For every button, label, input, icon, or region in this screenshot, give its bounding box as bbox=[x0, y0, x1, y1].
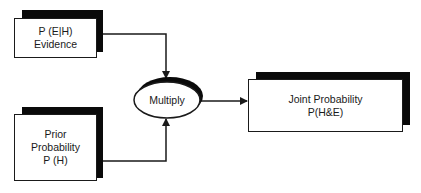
joint-node-formula: P(H&E) bbox=[308, 106, 344, 119]
edge-evidence-to-multiply bbox=[103, 34, 166, 78]
prior-node-formula: P (H) bbox=[43, 154, 67, 167]
prior-node-line-2: Probability bbox=[31, 141, 80, 154]
prior-node-line-1: Prior bbox=[44, 128, 66, 141]
multiply-node-label: Multiply bbox=[134, 82, 200, 118]
diagram-canvas: P (E|H) Evidence Prior Probability P (H)… bbox=[0, 0, 421, 193]
evidence-node-label: Evidence bbox=[34, 38, 77, 51]
joint-node-box: Joint Probability P(H&E) bbox=[248, 79, 403, 132]
edge-prior-to-multiply bbox=[103, 119, 166, 161]
evidence-node-box: P (E|H) Evidence bbox=[14, 18, 97, 58]
prior-node-box: Prior Probability P (H) bbox=[14, 114, 97, 181]
evidence-node-formula: P (E|H) bbox=[38, 25, 72, 38]
joint-node-label: Joint Probability bbox=[288, 93, 362, 106]
